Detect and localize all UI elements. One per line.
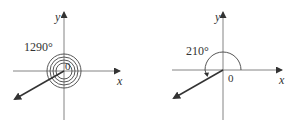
angle-diagrams [0,0,295,123]
y-axis-label: y [215,11,220,23]
arc-arrowhead [204,73,209,78]
angle-label: 1290° [24,41,53,53]
x-axis-label: x [117,75,122,87]
origin-label: 0 [228,72,234,84]
terminal-side-arrow [15,71,64,99]
x-axis-label: x [279,74,284,86]
angle-label: 210° [186,45,209,57]
origin-label: 0 [65,60,71,72]
terminal-side-arrow [174,70,223,98]
diagram-210 [172,12,282,120]
y-axis-label: y [55,11,60,23]
